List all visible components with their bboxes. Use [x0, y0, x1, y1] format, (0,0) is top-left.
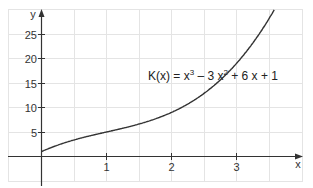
chart: 1 2 3 25 20 15 10 5 y x K(x) = x3 – 3 x2…: [0, 0, 313, 188]
y-tick-label-15: 15: [25, 78, 37, 90]
y-tick-label-25: 25: [25, 29, 37, 41]
y-axis-arrow-icon: [39, 9, 45, 17]
y-tick-label-10: 10: [25, 102, 37, 114]
y-axis-label: y: [30, 8, 36, 20]
y-tick-label-20: 20: [25, 53, 37, 65]
y-tick-label-5: 5: [31, 127, 37, 139]
x-tick-label-3: 3: [233, 161, 239, 173]
x-tick-label-1: 1: [103, 161, 109, 173]
x-axis-label: x: [295, 158, 301, 170]
equation-label: K(x) = x3 – 3 x2 + 6 x + 1: [148, 68, 278, 83]
x-tick-label-2: 2: [168, 161, 174, 173]
